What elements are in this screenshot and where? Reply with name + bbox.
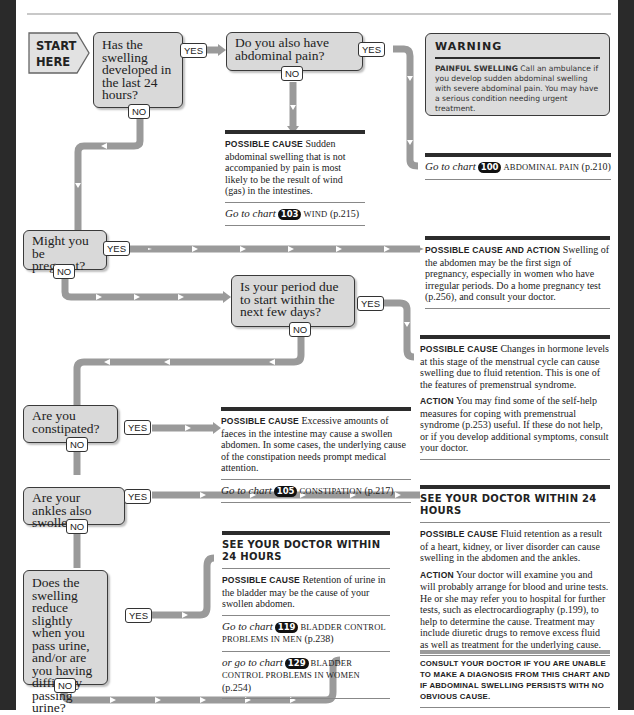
outcome-pregnancy-lead: POSSIBLE CAUSE AND ACTION (425, 245, 560, 255)
warning-lead: PAINFUL SWELLING (435, 64, 518, 73)
goto-chart-103-link[interactable]: Go to chart103WIND (p.215) (225, 208, 365, 221)
divider (425, 308, 610, 309)
chart-number-badge: 129 (285, 658, 309, 669)
q6-no-label[interactable]: NO (66, 519, 88, 534)
outcome-constipation-bar (221, 407, 411, 411)
outcome-premenstrual: POSSIBLE CAUSE Changes in hormone levels… (420, 335, 610, 465)
outcome-premenstrual-lead: POSSIBLE CAUSE (420, 344, 498, 354)
goto-chart-129-link[interactable]: or go to chart129BLADDER CONTROL PROBLEM… (222, 657, 390, 694)
divider (222, 615, 390, 616)
goto-chart-105-link[interactable]: Go to chart105CONSTIPATION (p.217) (221, 485, 411, 498)
outcome-consult: CONSULT YOUR DOCTOR IF YOU ARE UNABLE TO… (420, 650, 610, 713)
question-q5-text: Are you constipated? (32, 408, 99, 436)
q2-yes-label[interactable]: YES (358, 42, 385, 57)
outcome-pregnancy: POSSIBLE CAUSE AND ACTION Swelling of th… (425, 236, 610, 314)
question-q2-text: Do you also have abdominal pain? (235, 35, 329, 63)
q5-yes-label[interactable]: YES (124, 420, 151, 435)
divider (225, 225, 365, 226)
start-label-line2: HERE (36, 54, 86, 70)
goto-chart-100-link[interactable]: Go to chart100ABDOMINAL PAIN (p.210) (425, 161, 611, 174)
divider (420, 522, 610, 523)
start-here-label: START HERE (28, 33, 86, 75)
outcome-constipation-lead: POSSIBLE CAUSE (221, 416, 299, 426)
outcome-fluid-retention: SEE YOUR DOCTOR WITHIN 24 HOURS POSSIBLE… (420, 485, 610, 661)
outcome-fluid-retention-action-text: Your doctor will examine you and will pr… (420, 569, 608, 650)
divider (222, 651, 390, 652)
start-label-line1: START (36, 38, 86, 54)
outcome-urine-retention-lead: POSSIBLE CAUSE (222, 575, 300, 585)
question-q1-text: Has the swelling developed in the last 2… (102, 37, 171, 102)
goto-chart-119-link[interactable]: Go to chart119BLADDER CONTROL PROBLEMS I… (222, 621, 390, 646)
divider (225, 202, 365, 203)
q7-no-label[interactable]: NO (54, 678, 76, 693)
outcome-consult-bar (420, 650, 610, 654)
q3-no-label[interactable]: NO (53, 264, 75, 279)
warning-title: WARNING (435, 40, 600, 53)
q2-no-label[interactable]: NO (281, 66, 303, 81)
question-q1[interactable]: Has the swelling developed in the last 2… (93, 32, 183, 108)
outcome-abdominal-pain-bar (425, 153, 611, 157)
outcome-fluid-retention-action-lead: ACTION (420, 570, 454, 580)
q1-no-label[interactable]: NO (128, 104, 150, 119)
question-q7[interactable]: Does the swelling reduce slightly when y… (23, 570, 108, 685)
q7-yes-label[interactable]: YES (125, 608, 152, 623)
outcome-premenstrual-bar (420, 335, 610, 339)
q3-yes-label[interactable]: YES (103, 241, 130, 256)
q4-yes-label[interactable]: YES (357, 296, 384, 311)
outcome-constipation: POSSIBLE CAUSE Excessive amounts of faec… (221, 407, 411, 508)
divider (222, 698, 390, 699)
question-q4[interactable]: Is your period due to start within the n… (231, 275, 355, 327)
divider (420, 707, 610, 708)
divider (222, 568, 390, 569)
outcome-urine-retention: SEE YOUR DOCTOR WITHIN 24 HOURS POSSIBLE… (222, 531, 390, 704)
warning-box: WARNING PAINFUL SWELLING Call an ambulan… (425, 33, 610, 116)
divider (425, 179, 611, 180)
outcome-pregnancy-bar (425, 236, 610, 240)
outcome-premenstrual-action-lead: ACTION (420, 396, 454, 406)
q4-no-label[interactable]: NO (289, 322, 311, 337)
outcome-abdominal-pain: Go to chart100ABDOMINAL PAIN (p.210) (425, 153, 611, 185)
outcome-fluid-retention-heading: SEE YOUR DOCTOR WITHIN 24 HOURS (420, 493, 610, 517)
outcome-consult-text: CONSULT YOUR DOCTOR IF YOU ARE UNABLE TO… (420, 658, 610, 702)
outcome-urine-retention-bar (222, 531, 390, 535)
divider (221, 502, 411, 503)
divider (221, 479, 411, 480)
outcome-wind-lead: POSSIBLE CAUSE (225, 139, 303, 149)
q5-no-label[interactable]: NO (66, 437, 88, 452)
question-q4-text: Is your period due to start within the n… (240, 279, 339, 319)
outcome-fluid-retention-bar (420, 485, 610, 489)
chart-number-badge: 100 (478, 162, 502, 173)
q6-yes-label[interactable]: YES (124, 489, 151, 504)
outcome-wind-bar (225, 130, 365, 134)
outcome-urine-retention-heading: SEE YOUR DOCTOR WITHIN 24 HOURS (222, 539, 390, 563)
q1-yes-label[interactable]: YES (180, 43, 207, 58)
outcome-wind: POSSIBLE CAUSE Sudden abdominal swelling… (225, 130, 365, 231)
chart-number-badge: 119 (275, 622, 299, 633)
divider (420, 459, 610, 460)
chart-number-badge: 105 (274, 486, 298, 497)
outcome-fluid-retention-lead: POSSIBLE CAUSE (420, 529, 498, 539)
chart-number-badge: 103 (278, 209, 302, 220)
warning-divider (435, 57, 600, 59)
